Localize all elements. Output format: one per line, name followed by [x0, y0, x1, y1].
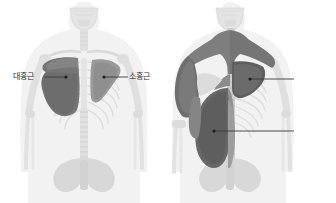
anatomy-figure: 대흉근 소흉근 [0, 0, 336, 203]
anterior-anatomy-illustration [0, 0, 168, 203]
cervical-spine [80, 29, 88, 51]
posterior-back-panel: 능형근 광배근 [168, 0, 336, 203]
anterior-chest-panel: 대흉근 소흉근 [0, 0, 168, 203]
posterior-anatomy-illustration [168, 0, 336, 203]
label-pectoralis-minor: 소흉근 [129, 72, 149, 82]
label-pectoralis-major: 대흉근 [13, 72, 33, 82]
sternum-and-spine [80, 58, 88, 160]
